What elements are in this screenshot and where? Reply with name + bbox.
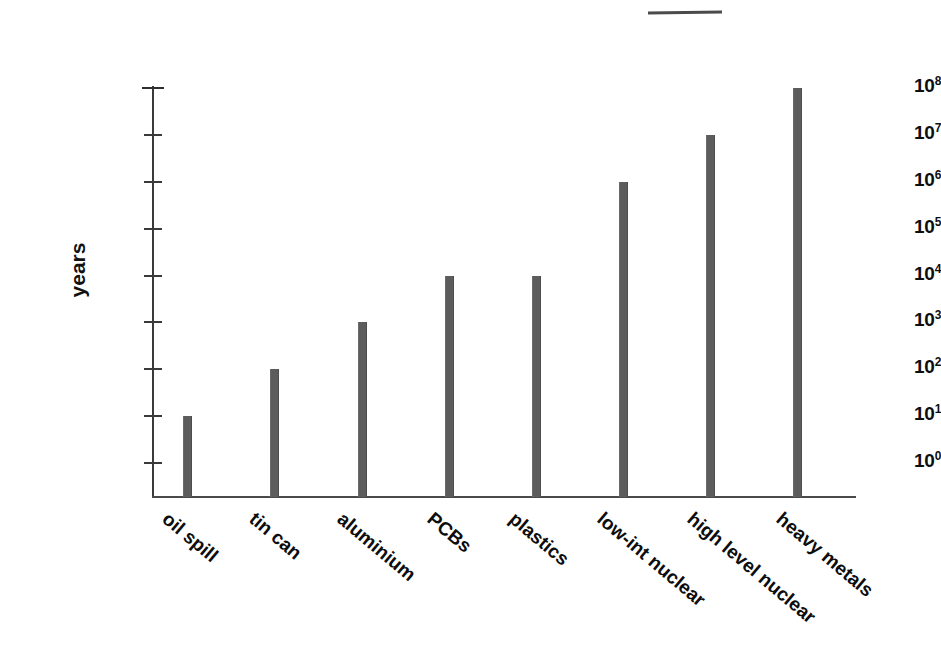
y-axis-tick-label: 105: [871, 216, 941, 238]
y-axis-tick-label: 101: [871, 403, 941, 425]
bar: [793, 88, 802, 497]
y-axis-tick: [144, 134, 162, 136]
chart-figure: years 108107106105104103102101100 oil sp…: [0, 0, 941, 671]
scan-artifact-mark: [648, 10, 722, 14]
y-axis-tick-label: 108: [871, 75, 941, 97]
y-axis-tick: [144, 368, 162, 370]
y-axis-tick-label: 104: [871, 263, 941, 285]
y-axis-tick: [144, 181, 162, 183]
bar: [358, 322, 367, 497]
y-axis-tick: [144, 415, 162, 417]
x-axis-line: [152, 496, 856, 498]
x-axis-tick-label: oil spill: [158, 508, 222, 567]
y-axis-tick: [144, 321, 162, 323]
y-axis-title: years: [66, 210, 90, 330]
y-axis-tick-label: 100: [871, 450, 941, 472]
y-axis-tick-label: 103: [871, 309, 941, 331]
y-axis-tick-label: 102: [871, 356, 941, 378]
y-axis-tick: [144, 228, 162, 230]
y-axis-tick: [144, 275, 162, 277]
x-axis-tick-label: plastics: [505, 508, 573, 570]
y-axis-tick-label: 106: [871, 169, 941, 191]
x-axis-tick-label: aluminium: [333, 508, 420, 586]
bar: [706, 135, 715, 497]
x-axis-tick-label: tin can: [245, 508, 306, 564]
bar: [619, 182, 628, 497]
y-axis-tick: [144, 462, 162, 464]
y-axis-tick: [142, 87, 164, 89]
bar: [183, 416, 192, 497]
x-axis-tick-label: PCBs: [423, 508, 476, 557]
bar: [445, 276, 454, 498]
bar: [270, 369, 279, 497]
y-axis-tick-label: 107: [871, 122, 941, 144]
y-axis-line: [152, 86, 154, 497]
bar: [532, 276, 541, 498]
